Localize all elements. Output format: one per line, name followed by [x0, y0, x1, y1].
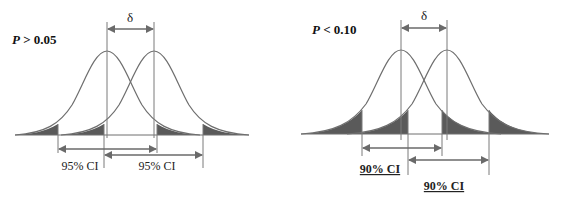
delta-label: δ: [421, 8, 427, 23]
panel-right: P < 0.10 δ 90% CI 90% CI: [301, 8, 549, 193]
delta-label: δ: [127, 10, 133, 25]
panel-right-title: P < 0.10: [312, 22, 357, 37]
ci-label-a: 90% CI: [360, 162, 401, 176]
distribution-curve-b: [61, 51, 249, 135]
figure-canvas: P > 0.05 δ 95% CI 95% CI P < 0.10: [0, 0, 561, 203]
panel-left: P > 0.05 δ 95% CI 95% CI: [12, 10, 249, 173]
ci-label-a: 95% CI: [62, 159, 99, 173]
ci-label-b: 95% CI: [139, 159, 176, 173]
ci-label-b: 90% CI: [424, 179, 465, 193]
shaded-tail-right-outer: [489, 110, 549, 134]
panel-left-title: P > 0.05: [12, 32, 57, 47]
shaded-tail-left-outer: [301, 110, 362, 134]
